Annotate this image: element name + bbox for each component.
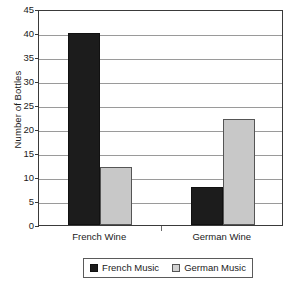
x-tick-label: German Wine — [192, 231, 251, 242]
plot-area — [38, 10, 283, 226]
y-tick-label: 25 — [4, 101, 34, 111]
legend-swatch-icon — [90, 264, 98, 272]
legend-entry-french-music: French Music — [90, 263, 159, 273]
y-tick-mark — [35, 226, 39, 227]
bar-french-wine-french-music — [68, 33, 100, 225]
legend-entry-german-music: German Music — [172, 263, 246, 273]
y-tick-label: 10 — [4, 173, 34, 183]
bar-german-wine-french-music — [191, 187, 223, 225]
bars-layer — [39, 11, 282, 225]
y-axis-ticks: 454035302520151050 — [0, 10, 34, 226]
chart-legend: French Music German Music — [83, 258, 253, 278]
legend-swatch-icon — [172, 264, 180, 272]
y-tick-label: 45 — [4, 5, 34, 15]
bar-french-wine-german-music — [100, 167, 132, 225]
y-tick-label: 20 — [4, 125, 34, 135]
y-tick-label: 0 — [4, 221, 34, 231]
x-axis-labels: French WineGerman Wine — [38, 231, 283, 249]
legend-label: French Music — [102, 263, 159, 273]
y-tick-label: 35 — [4, 53, 34, 63]
x-axis-center-tick — [161, 226, 162, 231]
y-tick-label: 5 — [4, 197, 34, 207]
bar-german-wine-german-music — [223, 119, 255, 225]
x-tick-label: French Wine — [72, 231, 126, 242]
y-tick-label: 40 — [4, 29, 34, 39]
y-tick-label: 30 — [4, 77, 34, 87]
legend-label: German Music — [184, 263, 246, 273]
y-tick-label: 15 — [4, 149, 34, 159]
bar-chart: Number of Bottles 454035302520151050 Fre… — [0, 0, 298, 289]
